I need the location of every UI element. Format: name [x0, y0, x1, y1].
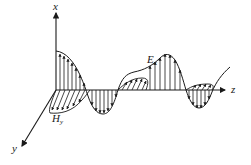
axes [22, 13, 225, 146]
electric-field-label: Ex [147, 54, 157, 67]
z-axis-label: z [231, 84, 235, 95]
em-wave-diagram [0, 0, 251, 165]
magnetic-field-label: Hy [52, 113, 63, 126]
y-axis [22, 90, 56, 146]
x-axis-label: x [53, 1, 58, 12]
electric-field-wave [56, 51, 230, 114]
y-axis-label: y [12, 143, 17, 154]
